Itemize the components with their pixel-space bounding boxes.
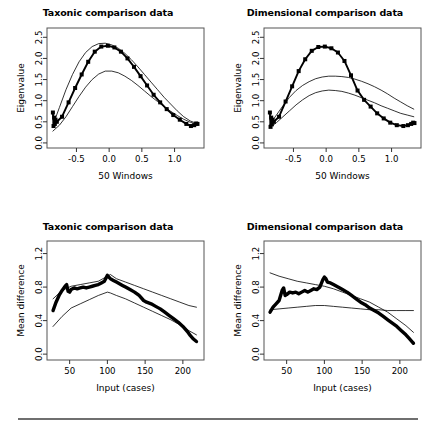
series-marker (323, 45, 327, 49)
plot-area-bottom-left: 501001502000.00.40.81.2Input (cases)Mean… (0, 205, 216, 413)
series-marker (51, 111, 55, 115)
series-marker (412, 121, 416, 125)
series-marker (342, 59, 346, 63)
series-line-observed (270, 277, 413, 343)
x-tick-label: 150 (137, 366, 153, 376)
series-marker (316, 45, 320, 49)
x-axis-title: Input (cases) (96, 383, 155, 393)
series-marker (178, 118, 182, 122)
y-tick-label: 2.5 (34, 30, 44, 44)
series-marker (375, 111, 379, 115)
x-tick-label: 100 (316, 366, 332, 376)
series-marker (99, 45, 103, 49)
series-marker (152, 93, 156, 97)
y-tick-label: 1.0 (34, 94, 44, 108)
x-tick-label: 100 (99, 366, 115, 376)
figure-panel-grid: Taxonic comparison data -0.50.00.51.00.0… (0, 0, 433, 429)
series-marker (132, 65, 136, 69)
plot-frame (264, 241, 421, 360)
chart-panel-top-left: Taxonic comparison data -0.50.00.51.00.0… (0, 0, 216, 200)
chart-panel-top-right: Dimensional comparison data -0.50.00.51.… (217, 0, 433, 200)
series-marker (303, 57, 307, 61)
y-tick-label: 2.5 (251, 30, 261, 44)
series-marker (395, 123, 399, 127)
y-tick-label: 0.5 (34, 115, 44, 129)
footer-divider (18, 418, 418, 420)
x-axis-title: 50 Windows (98, 171, 153, 181)
series-marker (55, 120, 59, 124)
series-marker (80, 72, 84, 76)
y-tick-label: 1.2 (34, 247, 44, 261)
x-tick-label: 1.0 (168, 154, 182, 164)
series-marker (60, 115, 64, 119)
y-tick-label: 2.0 (34, 52, 44, 66)
plot-frame (47, 241, 204, 360)
series-marker (388, 121, 392, 125)
series-marker (369, 105, 373, 109)
x-axis-title: Input (cases) (313, 383, 372, 393)
series-marker (139, 74, 143, 78)
series-line-lower-comparison (53, 292, 196, 335)
x-tick-label: 0.0 (319, 154, 333, 164)
y-tick-label: 0.5 (251, 115, 261, 129)
x-tick-label: 200 (175, 366, 191, 376)
series-marker (329, 46, 333, 50)
x-tick-label: 200 (392, 366, 408, 376)
y-tick-label: 1.2 (251, 247, 261, 261)
series-marker (382, 116, 386, 120)
plot-area-top-right: -0.50.00.51.00.00.51.01.52.02.550 Window… (217, 0, 433, 200)
y-tick-label: 1.5 (251, 73, 261, 87)
series-marker (93, 50, 97, 54)
series-line-observed (53, 46, 198, 126)
series-marker (277, 115, 281, 119)
y-tick-label: 0.0 (251, 136, 261, 150)
x-tick-label: -0.5 (285, 154, 302, 164)
chart-panel-bottom-left: Taxonic comparison data 501001502000.00.… (0, 205, 216, 413)
y-axis-title: Eigenvalue (233, 63, 243, 113)
x-tick-label: 0.5 (135, 154, 149, 164)
y-tick-label: 0.0 (34, 136, 44, 150)
y-tick-label: 0.0 (34, 347, 44, 361)
series-marker (73, 86, 77, 90)
series-marker (401, 124, 405, 128)
series-marker (310, 49, 314, 53)
series-marker (86, 60, 90, 64)
x-tick-label: 1.0 (385, 154, 399, 164)
y-axis-title: Eigenvalue (16, 63, 26, 113)
series-marker (184, 122, 188, 126)
series-marker (349, 73, 353, 77)
series-line-lower-comparison (53, 71, 197, 131)
series-marker (297, 69, 301, 73)
series-marker (268, 111, 272, 115)
series-line-lower-comparison (270, 306, 413, 311)
plot-area-top-left: -0.50.00.51.00.00.51.01.52.02.550 Window… (0, 0, 216, 200)
plot-frame (264, 28, 421, 148)
x-tick-label: 0.5 (352, 154, 366, 164)
series-marker (145, 83, 149, 87)
series-line-upper-comparison (53, 275, 196, 308)
x-tick-label: 50 (281, 366, 292, 376)
y-tick-label: 0.4 (251, 314, 261, 328)
plot-frame (47, 28, 204, 148)
y-axis-title: Mean difference (233, 264, 243, 337)
series-line-upper-comparison (270, 76, 414, 124)
y-tick-label: 0.8 (251, 280, 261, 294)
x-tick-label: 50 (64, 366, 75, 376)
series-marker (290, 84, 294, 88)
series-marker (336, 51, 340, 55)
y-tick-label: 2.0 (251, 52, 261, 66)
y-tick-label: 0.8 (34, 280, 44, 294)
x-axis-title: 50 Windows (315, 171, 370, 181)
y-tick-label: 1.5 (34, 73, 44, 87)
x-tick-label: 0.0 (102, 154, 116, 164)
y-tick-label: 0.0 (251, 347, 261, 361)
plot-area-bottom-right: 501001502000.00.40.81.2Input (cases)Mean… (217, 205, 433, 413)
series-marker (356, 89, 360, 93)
y-axis-title: Mean difference (16, 264, 26, 337)
chart-panel-bottom-right: Dimensional comparison data 501001502000… (217, 205, 433, 413)
series-marker (67, 100, 71, 104)
x-tick-label: -0.5 (68, 154, 85, 164)
x-tick-label: 150 (354, 366, 370, 376)
y-tick-label: 1.0 (251, 94, 261, 108)
y-tick-label: 0.4 (34, 314, 44, 328)
